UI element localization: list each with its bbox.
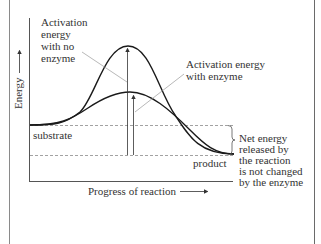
leader-with-enzyme: [135, 74, 184, 112]
label-activation-no-enzyme: Activation energy with no enzyme: [41, 16, 87, 64]
label-activation-with-enzyme: Activation energy with enzyme: [186, 58, 265, 82]
label-substrate: substrate: [33, 130, 72, 141]
leader-no-enzyme: [82, 52, 127, 82]
x-axis-label: Progress of reaction: [88, 186, 176, 197]
y-axis-label: Energy: [13, 77, 24, 109]
label-product: product: [193, 158, 227, 169]
net-energy-bracket: [228, 126, 235, 156]
label-net-energy: Net energy released by the reaction is n…: [239, 133, 303, 188]
